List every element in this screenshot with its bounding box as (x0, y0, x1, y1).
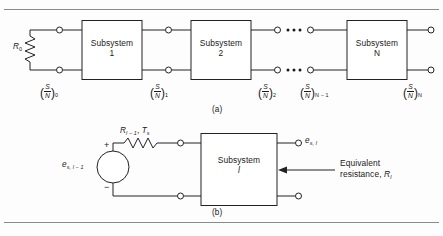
terminal-node (166, 67, 172, 73)
source-resistor-r0 (25, 30, 35, 70)
terminal-node (178, 193, 184, 199)
source-voltage-label: es, l − 1 (62, 160, 84, 170)
subsystem-n-label: Subsystem N (347, 38, 407, 59)
snr-label-2: (SN)2 (258, 84, 276, 101)
subsystem-l-label: Subsystem l (201, 155, 277, 176)
terminal-node (275, 67, 281, 73)
terminal-node (57, 27, 63, 33)
terminal-node (275, 27, 281, 33)
equivalent-resistance-arrow (278, 167, 335, 174)
resistor-temperature-label: Rl − 1, Ts (120, 126, 150, 136)
terminal-node (308, 67, 314, 73)
panel-b-caption: (b) (212, 208, 222, 218)
terminal-node (428, 67, 434, 73)
figure-container: R0 Subsystem 1 Subsystem 2 Subsystem N (… (0, 0, 443, 236)
source-plus-sign: + (104, 140, 109, 150)
source-minus-sign: − (104, 182, 109, 192)
terminal-node (178, 140, 184, 146)
subsystem-2-label: Subsystem 2 (191, 38, 251, 59)
source-resistance-label: R0 (13, 42, 22, 52)
terminal-node (57, 67, 63, 73)
terminal-node (308, 27, 314, 33)
terminal-node (296, 193, 302, 199)
equivalent-resistance-note: Equivalent resistance, Rl (340, 158, 432, 180)
terminal-node (296, 140, 302, 146)
figure-drawing (0, 0, 443, 236)
panel-a-caption: (a) (212, 105, 222, 115)
snr-label-1: (SN)1 (150, 84, 168, 101)
voltage-source-symbol (97, 151, 129, 183)
snr-label-n-minus-1: (SN)N − 1 (300, 84, 329, 101)
output-voltage-label: es, l (305, 136, 317, 146)
terminal-node (428, 27, 434, 33)
terminal-node (166, 27, 172, 33)
snr-label-0: (SN)0 (40, 84, 58, 101)
snr-label-n: (SN)N (403, 84, 422, 101)
subsystem-1-label: Subsystem 1 (82, 38, 142, 59)
